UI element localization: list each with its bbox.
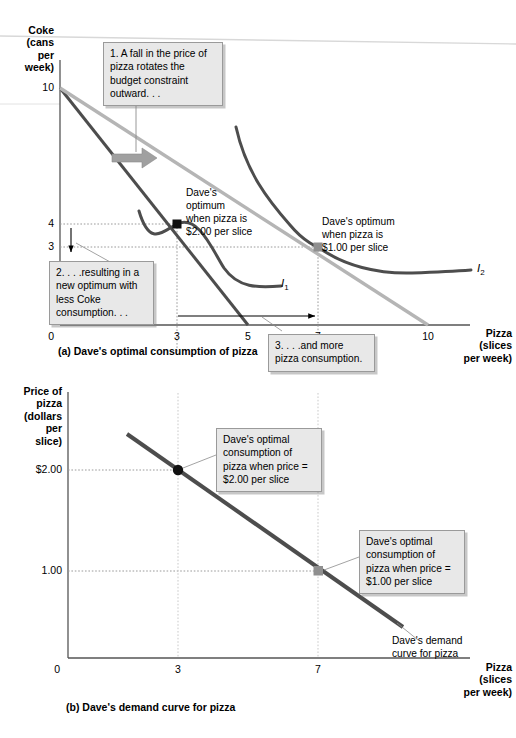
panel-a-xtick-3: 3: [167, 330, 187, 342]
panel-a-xtick-10: 10: [418, 330, 438, 342]
panel-a-caption: (a) Dave's optimal consumption of pizza: [58, 345, 258, 357]
callout-step-1: 1. A fall in the price of pizza rotates …: [103, 42, 223, 106]
panel-b-ytick-2: $2.00: [14, 463, 62, 475]
optimum-point-2-dollars: [173, 220, 182, 229]
economics-figure: Coke (cans per week) Pizza (slices per w…: [0, 0, 516, 738]
panel-a-xtick-5: 5: [238, 330, 258, 342]
page-scan-edge: [0, 36, 516, 44]
panel-b-origin-label: 0: [42, 663, 60, 675]
curve-label-i1: I1: [281, 277, 289, 293]
panel-b-caption: (b) Dave's demand curve for pizza: [66, 701, 235, 713]
demand-point-1-dollar: [314, 566, 324, 576]
demand-point-2-dollars: [173, 465, 183, 475]
panel-b-xtick-7: 7: [308, 663, 328, 675]
panel-a-y-axis-label: Coke (cans per week): [6, 24, 54, 74]
panel-b-x-axis-label: Pizza (slices per week): [430, 661, 512, 698]
curve-label-i2-subscript: 2: [480, 268, 484, 277]
optimum-1-dollar-label: Dave's optimum when pizza is $1.00 per s…: [322, 215, 448, 254]
optimum-2-dollars-label: Dave's optimum when pizza is $2.00 per s…: [186, 186, 310, 238]
budget-rotation-block-arrow: [112, 148, 157, 168]
panel-a-origin-label: 0: [36, 330, 54, 342]
panel-b-callout-1-leader: [324, 557, 359, 570]
callout-3-leader: [262, 317, 282, 331]
panel-b-callout-2-leader: [183, 455, 216, 468]
panel-a-ytick-3: 3: [24, 240, 54, 252]
callout-demand-point-2-dollars: Dave's optimal consumption of pizza when…: [216, 428, 322, 492]
figure-graphics: [0, 0, 516, 738]
panel-a-x-axis-label: Pizza (slices per week): [430, 327, 512, 364]
panel-b-xtick-3: 3: [168, 663, 188, 675]
demand-curve-label: Dave's demand curve for pizza: [392, 634, 504, 660]
curve-label-i1-subscript: 1: [284, 283, 288, 292]
callout-step-3: 3. . . .and more pizza consumption.: [268, 334, 375, 372]
callout-demand-point-1-dollar: Dave's optimal consumption of pizza when…: [359, 530, 465, 594]
curve-label-i2: I2: [477, 262, 485, 278]
panel-b-y-axis-label: Price of pizza (dollars per slice): [6, 385, 62, 447]
panel-b-ytick-1: 1.00: [14, 564, 62, 576]
panel-a-ytick-10: 10: [24, 81, 54, 93]
callout-step-2: 2. . . .resulting in a new optimum with …: [49, 261, 154, 325]
panel-a-ytick-4: 4: [24, 217, 54, 229]
